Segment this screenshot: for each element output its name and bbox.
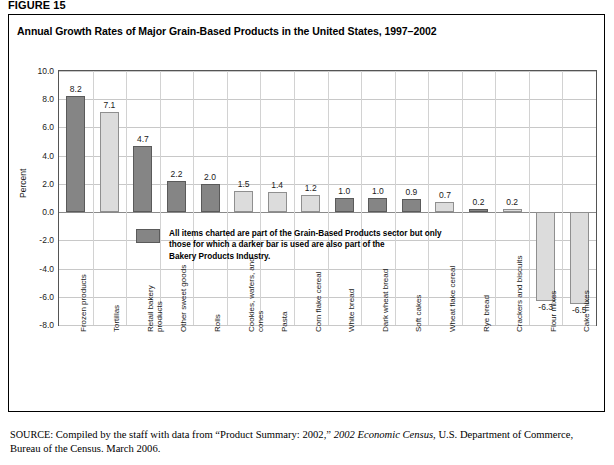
source-prefix: SOURCE [10, 429, 50, 440]
x-axis-category-label: Flour mixes [549, 291, 558, 332]
bar[interactable] [234, 191, 253, 212]
source-citation-title: 2002 Economic Census [334, 429, 433, 440]
page-title: Annual Growth Rates of Major Grain-Based… [17, 25, 437, 37]
bar[interactable] [66, 96, 85, 212]
x-axis-category-label: Soft cakes [414, 295, 423, 332]
gridline-vertical [294, 71, 295, 325]
y-axis-tick-label: 6.0 [42, 122, 54, 132]
x-axis-category-label: Frozen products [79, 274, 88, 332]
bar[interactable] [301, 195, 320, 212]
gridline-vertical [227, 71, 228, 325]
bar[interactable] [133, 146, 152, 212]
bar-value-label: -6.5 [559, 305, 599, 315]
x-axis-category-label: Wheat flake cereal [448, 266, 457, 332]
x-axis-category-label: Rye bread [482, 295, 491, 332]
bar[interactable] [167, 181, 186, 212]
x-axis-category-label: Dark wheat bread [381, 269, 390, 332]
figure-label: FIGURE 15 [8, 0, 66, 11]
bar[interactable] [503, 209, 522, 212]
bar[interactable] [335, 198, 354, 212]
x-axis-category-label: Corn flake cereal [314, 272, 323, 332]
dark-bar-swatch-icon [136, 229, 160, 243]
y-axis-label: Percent [18, 169, 28, 198]
bar[interactable] [100, 112, 119, 212]
bar-value-label: 8.2 [56, 84, 96, 94]
annotation-text: All items charted are part of the Grain-… [169, 228, 442, 262]
bar-value-label: 0.2 [492, 197, 532, 207]
bar-value-label: 7.1 [89, 100, 129, 110]
x-axis-category-label: Tortillas [112, 305, 121, 332]
y-axis-tick-label: -4.0 [39, 264, 54, 274]
x-axis-category-label: Other sweet goods [179, 265, 188, 332]
bar[interactable] [402, 199, 421, 212]
gridline-vertical [328, 71, 329, 325]
bar[interactable] [201, 184, 220, 212]
gridline-vertical [395, 71, 396, 325]
gridline-vertical [562, 71, 563, 325]
y-axis-tick-label: -6.0 [39, 292, 54, 302]
gridline-vertical [361, 71, 362, 325]
x-axis-category-label: Cake mixes [582, 290, 591, 332]
bar-value-label: 4.7 [123, 134, 163, 144]
x-axis-category-label: White bread [347, 289, 356, 332]
y-axis-tick-label: 10.0 [37, 66, 54, 76]
bar[interactable] [435, 202, 454, 212]
y-axis-tick-label: 4.0 [42, 151, 54, 161]
x-axis-category-label: Rolls [213, 314, 222, 332]
y-axis-tick-label: -2.0 [39, 235, 54, 245]
x-axis-category-label: Retail bakery products [146, 285, 164, 332]
y-axis-tick-label: 2.0 [42, 179, 54, 189]
bar[interactable] [368, 198, 387, 212]
bar[interactable] [469, 209, 488, 212]
gridline-vertical [193, 71, 194, 325]
bar[interactable] [268, 192, 287, 212]
source-text-part1: : Compiled by the staff with data from “… [50, 429, 333, 440]
x-axis-category-label: Crackers and biscuits [515, 256, 524, 332]
source-note: SOURCE: Compiled by the staff with data … [10, 428, 606, 456]
chart-annotation: All items charted are part of the Grain-… [136, 228, 442, 262]
x-axis-category-label: Cookies, wafers, and cones [247, 257, 265, 332]
y-axis-tick-label: -8.0 [39, 320, 54, 330]
bar[interactable] [536, 212, 555, 301]
y-axis-tick-label: 8.0 [42, 94, 54, 104]
x-axis-category-label: Pasta [280, 312, 289, 332]
y-axis-tick-label: 0.0 [42, 207, 54, 217]
